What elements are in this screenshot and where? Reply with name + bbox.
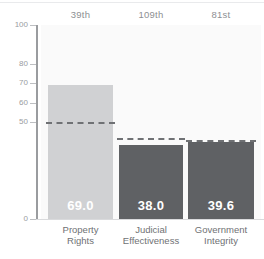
y-axis-tick-label: 80 <box>2 59 28 68</box>
bar-value-label: 39.6 <box>188 198 254 213</box>
benchmark-line <box>117 138 185 140</box>
y-axis-tick <box>30 103 36 104</box>
bar[interactable]: 38.0 <box>119 145 183 219</box>
y-axis-tick-label: 50 <box>2 117 28 126</box>
category-label-line: Integrity <box>175 235 264 246</box>
y-axis-tick-label-wrap: 50 <box>0 117 28 127</box>
y-axis-tick-label: 100 <box>2 20 28 29</box>
y-axis-spine <box>36 25 38 219</box>
y-axis-tick-label-wrap: 70 <box>0 78 28 88</box>
baseline <box>36 219 264 220</box>
bar-chart: 39th 109th 81st 050607080100 69.038.039.… <box>0 0 264 259</box>
plot-area: 050607080100 69.038.039.6 PropertyRights… <box>0 0 264 259</box>
y-axis-tick-label-wrap: 60 <box>0 98 28 108</box>
y-axis-tick <box>30 83 36 84</box>
bar[interactable]: 39.6 <box>188 142 254 219</box>
y-axis-tick <box>30 25 36 26</box>
benchmark-line <box>186 140 256 142</box>
bar-value-label: 38.0 <box>119 198 183 213</box>
bar-value-label: 69.0 <box>48 198 113 213</box>
y-axis-tick-label-wrap: 0 <box>0 214 28 224</box>
y-axis-tick-label: 70 <box>2 78 28 87</box>
y-axis-tick-label: 60 <box>2 98 28 107</box>
y-axis-tick <box>30 64 36 65</box>
y-axis-tick-label-wrap: 80 <box>0 59 28 69</box>
bar[interactable]: 69.0 <box>48 85 113 219</box>
y-axis-tick <box>30 122 36 123</box>
y-axis-tick-label: 0 <box>2 214 28 223</box>
category-label: GovernmentIntegrity <box>175 224 264 246</box>
y-axis-tick-label-wrap: 100 <box>0 20 28 30</box>
benchmark-line <box>46 122 115 124</box>
category-label-line: Government <box>175 224 264 235</box>
